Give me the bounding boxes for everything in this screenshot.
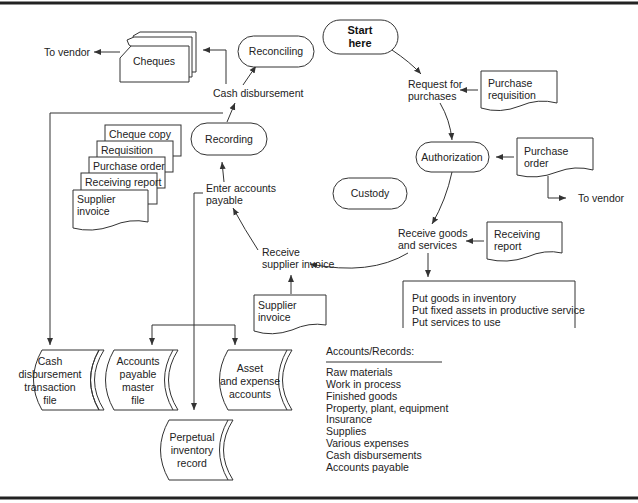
svg-text:Put goods in inventory: Put goods in inventory: [412, 292, 517, 304]
cheques-doc: Cheques: [120, 32, 196, 82]
svg-text:Work in process: Work in process: [326, 378, 401, 390]
svg-text:report: report: [494, 240, 522, 252]
svg-text:Requisition: Requisition: [101, 144, 153, 156]
svg-text:inventory: inventory: [171, 444, 214, 456]
svg-text:Accounts: Accounts: [116, 355, 159, 367]
svg-text:master: master: [122, 381, 155, 393]
svg-text:Supplies: Supplies: [326, 425, 366, 437]
svg-text:payable: payable: [120, 368, 157, 380]
receive-goods-label-2: and services: [398, 239, 457, 251]
file-asset-expense: Asset and expense accounts: [220, 350, 293, 410]
file-ap-master: Accounts payable master file: [106, 350, 179, 410]
svg-text:file: file: [43, 394, 57, 406]
svg-text:Recording: Recording: [205, 133, 253, 145]
svg-text:Asset: Asset: [237, 362, 263, 374]
to-vendor-right: To vendor: [578, 192, 625, 204]
file-cash-disbursement: Cash disbursement transaction file: [18, 350, 104, 410]
recording-terminator: Recording: [191, 123, 267, 155]
svg-text:Cheque copy: Cheque copy: [109, 128, 172, 140]
purchase-order-doc: Purchase order: [517, 138, 593, 177]
actions-box: Put goods in inventory Put fixed assets …: [403, 281, 585, 328]
svg-text:Supplier: Supplier: [258, 299, 297, 311]
start-label-2: here: [348, 37, 371, 49]
authorization-terminator: Authorization: [416, 142, 489, 172]
svg-text:Cash: Cash: [38, 355, 63, 367]
svg-text:Raw materials: Raw materials: [326, 366, 393, 378]
enter-ap-label-2: payable: [206, 194, 243, 206]
accounts-records-heading: Accounts/Records:: [326, 345, 414, 357]
custody-terminator: Custody: [333, 178, 407, 209]
svg-text:and expense: and expense: [220, 375, 280, 387]
start-terminator: Start here: [323, 20, 398, 54]
svg-text:invoice: invoice: [77, 205, 110, 217]
svg-text:Finished goods: Finished goods: [326, 390, 397, 402]
request-label-1: Request for: [408, 78, 463, 90]
svg-text:transaction: transaction: [24, 381, 76, 393]
receive-invoice-label-2: supplier invoice: [262, 258, 335, 270]
svg-text:order: order: [524, 157, 549, 169]
svg-text:Purchase order: Purchase order: [93, 160, 165, 172]
cash-disbursement-label: Cash disbursement: [213, 87, 304, 99]
svg-text:Receiving: Receiving: [494, 228, 540, 240]
receive-invoice-label-1: Receive: [262, 246, 300, 258]
svg-text:Purchase: Purchase: [524, 145, 569, 157]
svg-text:Authorization: Authorization: [421, 151, 482, 163]
svg-text:Supplier: Supplier: [77, 193, 116, 205]
request-label-2: purchases: [408, 90, 456, 102]
svg-text:Accounts payable: Accounts payable: [326, 461, 409, 473]
svg-text:disbursement: disbursement: [18, 368, 81, 380]
to-vendor-left: To vendor: [44, 46, 91, 58]
svg-text:Put services to use: Put services to use: [412, 316, 501, 328]
svg-text:Receiving report: Receiving report: [85, 176, 162, 188]
flowchart-canvas: Start here Request for purchases Purchas…: [0, 0, 638, 503]
receive-goods-label-1: Receive goods: [398, 227, 467, 239]
svg-text:Put fixed assets in productive: Put fixed assets in productive service: [412, 304, 585, 316]
svg-text:accounts: accounts: [229, 388, 271, 400]
svg-text:requisition: requisition: [488, 89, 536, 101]
supplier-invoice-doc: Supplier invoice: [254, 295, 326, 334]
svg-text:Perpetual: Perpetual: [170, 431, 215, 443]
svg-text:Insurance: Insurance: [326, 413, 372, 425]
enter-ap-label-1: Enter accounts: [206, 182, 276, 194]
file-perpetual-inventory: Perpetual inventory record: [161, 420, 234, 480]
svg-text:Custody: Custody: [351, 187, 390, 199]
purchase-requisition-doc: Purchase requisition: [481, 71, 557, 111]
svg-text:Various expenses: Various expenses: [326, 437, 409, 449]
receiving-report-doc: Receiving report: [487, 222, 562, 261]
reconciling-terminator: Reconciling: [238, 36, 314, 67]
svg-text:Purchase: Purchase: [488, 77, 533, 89]
svg-text:Cheques: Cheques: [133, 55, 175, 67]
svg-text:record: record: [177, 457, 207, 469]
start-label-1: Start: [347, 24, 372, 36]
svg-text:invoice: invoice: [258, 311, 291, 323]
svg-text:Cash disbursements: Cash disbursements: [326, 449, 422, 461]
document-stack: Cheque copy Requisition Purchase order R…: [73, 125, 181, 230]
svg-text:file: file: [131, 394, 145, 406]
accounts-records-list: Accounts/Records: Raw materials Work in …: [326, 345, 448, 473]
svg-text:Reconciling: Reconciling: [249, 45, 303, 57]
